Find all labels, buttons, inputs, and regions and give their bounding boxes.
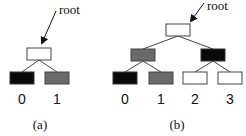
leaf-label: 2	[191, 91, 199, 107]
leaf-node-white	[183, 72, 207, 84]
root-node-a	[27, 48, 51, 60]
edge	[213, 61, 230, 72]
leaf-node-black	[113, 72, 137, 84]
internal-node-black	[201, 49, 225, 61]
leaf-label: 1	[53, 91, 61, 107]
leaf-label: 0	[18, 91, 26, 107]
internal-node-gray	[131, 49, 155, 61]
caption-b: (b)	[169, 117, 184, 132]
leaf-label: 1	[157, 91, 165, 107]
tree-diagrams: root 0 1 (a) root 0 1 2 3 (b)	[0, 0, 246, 136]
root-arrow-a	[42, 11, 56, 43]
caption-a: (a)	[33, 117, 47, 132]
figure: root 0 1 (a) root 0 1 2 3 (b)	[0, 0, 246, 136]
tree-a: root 0 1 (a)	[10, 2, 80, 132]
edge	[178, 36, 213, 49]
leaf-node-black	[10, 72, 34, 84]
edge	[39, 60, 57, 72]
edge	[22, 60, 39, 72]
edge	[143, 36, 178, 49]
edge	[195, 61, 213, 72]
leaf-label: 3	[226, 91, 234, 107]
leaf-node-gray	[45, 72, 69, 84]
tree-b: root 0 1 2 3 (b)	[113, 0, 242, 132]
root-label-b: root	[207, 0, 228, 13]
edge	[143, 61, 161, 72]
root-label-a: root	[59, 2, 80, 17]
leaf-node-white	[218, 72, 242, 84]
root-arrow-b	[191, 3, 204, 21]
leaf-label: 0	[121, 91, 129, 107]
root-node-b	[166, 24, 190, 36]
leaf-node-gray	[149, 72, 173, 84]
edge	[125, 61, 143, 72]
